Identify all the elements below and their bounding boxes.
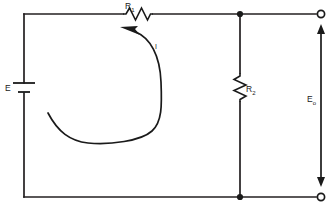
output-arrow-head-down: [317, 177, 325, 187]
output-arrow-head-up: [317, 24, 325, 34]
terminal-top-right[interactable]: [317, 10, 324, 17]
resistor-r2-label: R2: [246, 85, 255, 96]
current-arrow-head: [120, 26, 140, 35]
junction-dot-top: [237, 11, 243, 17]
circuit-schematic-canvas: [0, 0, 334, 210]
circuit-diagram: R1 R2 E Eo I: [0, 0, 334, 210]
junction-dot-bottom: [237, 194, 243, 200]
source-voltage-label: E: [5, 84, 11, 93]
output-voltage-label: Eo: [307, 95, 316, 106]
resistor-r1-label: R1: [125, 2, 134, 13]
current-label: I: [155, 43, 157, 50]
current-loop-path: [48, 32, 161, 144]
terminal-bottom-right[interactable]: [317, 193, 324, 200]
resistor-r2-symbol: [234, 73, 246, 102]
